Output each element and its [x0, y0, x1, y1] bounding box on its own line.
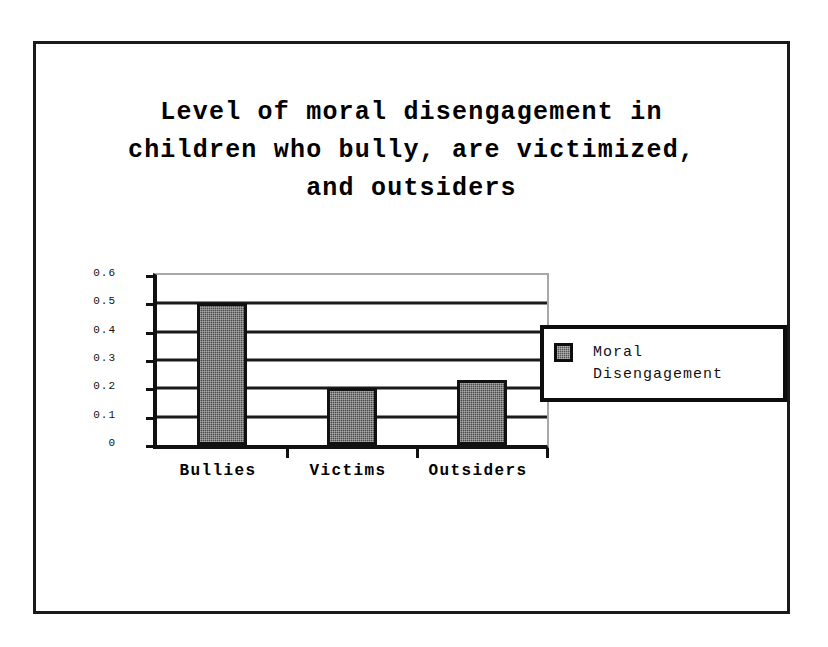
y-axis-tick-mark [146, 417, 157, 420]
x-axis-category-label: Outsiders [428, 462, 527, 480]
x-axis-tick-mark [416, 448, 419, 458]
bar-victims [327, 388, 378, 445]
y-axis-tick-label: 0.2 [93, 380, 116, 392]
bar-bullies [197, 303, 248, 445]
y-axis-tick-labels: 0.60.50.40.30.20.10 [76, 266, 120, 446]
y-axis-tick-label: 0 [108, 437, 116, 449]
x-axis-category-label: Victims [309, 462, 386, 480]
slide-frame: Level of moral disengagement in children… [33, 41, 790, 614]
y-axis-tick-label: 0.1 [93, 409, 116, 421]
x-axis-category-labels: BulliesVictimsOutsiders [153, 462, 549, 488]
y-axis-tick-mark [146, 303, 157, 306]
x-axis-tick-mark [546, 448, 549, 458]
y-axis-tick-label: 0.5 [93, 295, 116, 307]
y-axis-tick-label: 0.4 [93, 324, 116, 336]
y-axis-tick-mark [146, 388, 157, 391]
x-axis-category-label: Bullies [179, 462, 256, 480]
y-axis-tick-mark [146, 332, 157, 335]
plot-area [153, 273, 549, 449]
y-axis-tick-label: 0.3 [93, 352, 116, 364]
legend-entry-label: Moral Disengagement [593, 342, 723, 386]
x-axis-tick-mark [286, 448, 289, 458]
chart-plot-region: 0.60.50.40.30.20.10 BulliesVictimsOutsid… [76, 266, 566, 506]
chart-legend: Moral Disengagement [540, 325, 787, 402]
y-axis-tick-mark [146, 275, 157, 278]
y-axis-tick-mark [146, 360, 157, 363]
bar-outsiders [457, 380, 508, 445]
legend-color-swatch [554, 343, 573, 362]
chart-title: Level of moral disengagement in children… [36, 94, 787, 208]
y-axis-tick-label: 0.6 [93, 267, 116, 279]
y-axis-tick-mark [146, 445, 157, 448]
